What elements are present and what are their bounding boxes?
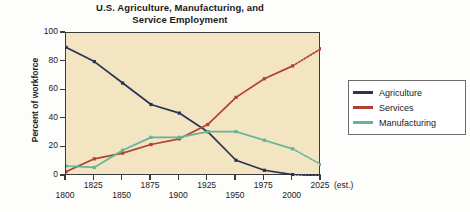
legend-item[interactable]: Services	[353, 100, 461, 115]
series-line-services	[293, 49, 321, 66]
data-point-marker	[121, 81, 124, 84]
data-point-marker	[178, 111, 181, 114]
chart-title: U.S. Agriculture, Manufacturing, and Ser…	[55, 2, 305, 25]
x-tick-label: 1825	[80, 180, 106, 190]
data-point-marker	[319, 163, 321, 166]
series-line-agriculture	[66, 47, 293, 174]
data-point-marker	[234, 130, 237, 133]
y-tick-label: 80	[28, 55, 58, 65]
data-point-marker	[319, 47, 321, 50]
legend-swatch-manufacturing	[353, 121, 373, 123]
x-tick-label: 1875	[137, 180, 163, 190]
series-line-agriculture	[293, 175, 321, 176]
legend-label-agriculture: Agriculture	[379, 88, 422, 98]
data-point-marker	[149, 136, 152, 139]
x-tick-label: 1950	[222, 190, 248, 200]
data-point-marker	[93, 166, 96, 169]
data-point-marker	[178, 136, 181, 139]
chart-title-line-1: U.S. Agriculture, Manufacturing, and	[55, 2, 305, 14]
data-point-marker	[263, 139, 266, 142]
chart-title-line-2: Service Employment	[55, 14, 305, 26]
data-point-marker	[66, 46, 68, 49]
x-tick-label: 1800	[52, 190, 78, 200]
data-point-marker	[93, 157, 96, 160]
x-tick-label: 1925	[194, 180, 220, 190]
x-tick-label: 1975	[250, 180, 276, 190]
data-point-marker	[319, 174, 321, 176]
data-point-marker	[206, 123, 209, 126]
plot-area	[65, 32, 320, 175]
legend-item[interactable]: Manufacturing	[353, 115, 461, 130]
legend-label-manufacturing: Manufacturing	[379, 118, 436, 128]
legend-label-services: Services	[379, 103, 414, 113]
y-tick-label: 20	[28, 140, 58, 150]
data-point-marker	[263, 169, 266, 172]
data-point-marker	[291, 64, 294, 67]
data-point-marker	[149, 143, 152, 146]
data-point-marker	[234, 96, 237, 99]
chart-legend: Agriculture Services Manufacturing	[348, 80, 466, 135]
x-axis-estimate-note: (est.)	[334, 180, 353, 190]
x-tick-label: 2025	[307, 180, 333, 190]
y-tick-label: 100	[28, 26, 58, 36]
x-tick-label: 2000	[279, 190, 305, 200]
legend-swatch-agriculture	[353, 91, 373, 93]
x-tick-label: 1900	[165, 190, 191, 200]
data-point-marker	[234, 159, 237, 162]
data-point-marker	[291, 173, 294, 176]
data-point-marker	[93, 60, 96, 63]
series-line-manufacturing	[293, 149, 321, 165]
x-tick-label: 1850	[109, 190, 135, 200]
y-tick-label: 60	[28, 83, 58, 93]
legend-item[interactable]: Agriculture	[353, 85, 461, 100]
series-lines	[66, 33, 321, 176]
data-point-marker	[263, 77, 266, 80]
data-point-marker	[66, 164, 68, 167]
data-point-marker	[291, 147, 294, 150]
data-point-marker	[206, 130, 209, 133]
chart-figure: U.S. Agriculture, Manufacturing, and Ser…	[0, 0, 470, 212]
data-point-marker	[121, 149, 124, 152]
data-point-marker	[149, 103, 152, 106]
y-tick-label: 40	[28, 112, 58, 122]
series-line-services	[66, 66, 293, 172]
legend-swatch-services	[353, 106, 373, 108]
y-tick-label: 0	[28, 169, 58, 179]
data-point-marker	[121, 152, 124, 155]
data-point-marker	[66, 170, 68, 173]
